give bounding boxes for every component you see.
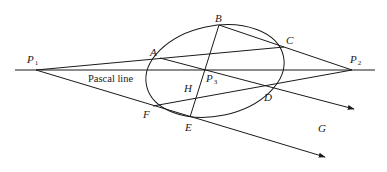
label-p3: P3 bbox=[205, 72, 218, 86]
label-a: A bbox=[149, 46, 157, 58]
line-b-e bbox=[190, 25, 219, 117]
line-b-p2 bbox=[219, 25, 352, 70]
label-h: H bbox=[183, 82, 193, 94]
pascal-line-label: Pascal line bbox=[88, 73, 134, 84]
label-e: E bbox=[184, 121, 192, 133]
label-d: D bbox=[263, 91, 272, 103]
label-p2: P2 bbox=[349, 53, 362, 67]
label-b: B bbox=[215, 12, 222, 24]
label-c: C bbox=[286, 34, 294, 46]
pascal-diagram: P1 P2 P3 A B C D E F G H Pascal line bbox=[0, 0, 387, 172]
label-g: G bbox=[318, 122, 326, 134]
conic-ellipse bbox=[137, 12, 293, 129]
label-f: F bbox=[142, 108, 150, 120]
label-p1: P1 bbox=[26, 53, 39, 67]
